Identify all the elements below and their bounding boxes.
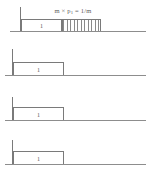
baseline (5, 120, 146, 121)
probability-mass-diagram: m × p1 = 1/m 1111 (0, 0, 151, 178)
formula-suffix: = 1/m (73, 7, 91, 14)
box-label: 1 (37, 112, 40, 118)
formula-label: m × p1 = 1/m (55, 8, 92, 15)
box-label: 1 (37, 67, 40, 73)
formula-prefix: m × p (55, 7, 71, 14)
baseline (10, 31, 146, 32)
hatched-region (62, 19, 101, 31)
baseline (5, 75, 146, 76)
baseline (5, 164, 146, 165)
box-label: 1 (40, 23, 43, 29)
box-label: 1 (37, 156, 40, 162)
formula-subscript: 1 (71, 10, 74, 15)
